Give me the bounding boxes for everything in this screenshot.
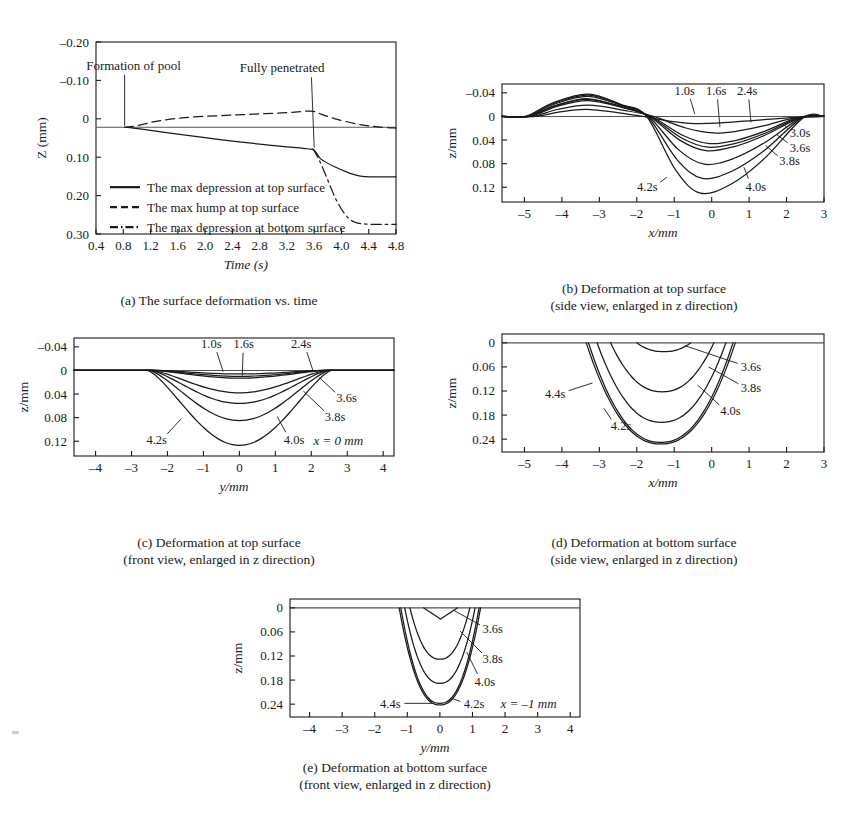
x-tick-label: –4 xyxy=(554,456,569,471)
curve-label-leader xyxy=(307,352,313,371)
x-tick-label: 2 xyxy=(502,721,509,736)
legend-label: The max hump at top surface xyxy=(147,200,299,215)
panel-a-caption: (a) The surface deformation vs. time xyxy=(14,292,424,309)
x-tick-label: 2 xyxy=(783,206,790,221)
x-tick-label: 1 xyxy=(746,456,753,471)
y-tick-label: 0 xyxy=(61,363,68,378)
curve-label-leader xyxy=(167,419,181,434)
x-tick-label: –3 xyxy=(592,456,606,471)
curve-label: 4.2s xyxy=(637,180,658,194)
series-dashed xyxy=(125,111,396,128)
y-tick-label: –0.04 xyxy=(465,85,496,100)
x-tick-label: –3 xyxy=(124,460,138,475)
caption-line: (front view, enlarged in z direction) xyxy=(14,551,424,568)
y-tick-label: 0.08 xyxy=(472,156,495,171)
y-tick-label: 0.18 xyxy=(260,673,283,688)
x-axis-title: y/mm xyxy=(418,740,449,755)
panel-a: –0.20–0.1000.100.200.300.40.81.21.62.02.… xyxy=(14,22,424,309)
y-tick-label: 0 xyxy=(489,335,496,350)
plot-frame xyxy=(502,84,824,202)
curve-label-leader xyxy=(569,383,593,391)
panel-d: 00.060.120.180.24–5–4–3–2–10123x/mmz/mm3… xyxy=(444,320,844,569)
curve-label-leader xyxy=(319,378,335,393)
x-tick-label: 2.0 xyxy=(197,238,213,253)
curve-label-leader xyxy=(660,177,667,182)
y-tick-label: 0 xyxy=(489,109,496,124)
x-tick-label: –3 xyxy=(335,721,349,736)
caption-line: (side view, enlarged in z direction) xyxy=(444,551,844,568)
panel-d-plot: 00.060.120.180.24–5–4–3–2–10123x/mmz/mm3… xyxy=(444,320,844,520)
x-tick-label: 0.8 xyxy=(115,238,131,253)
y-tick-label: 0.04 xyxy=(44,387,67,402)
curve-label: 4.0s xyxy=(284,433,305,447)
curve-label-leader xyxy=(604,408,611,419)
curve-label-leader xyxy=(217,352,223,371)
x-tick-label: 2.8 xyxy=(252,238,268,253)
x-tick-label: –1 xyxy=(667,456,681,471)
y-tick-label: 0.06 xyxy=(472,359,495,374)
panel-c-caption: (c) Deformation at top surface (front vi… xyxy=(14,534,424,569)
curve-label: 3.8s xyxy=(741,381,762,395)
y-tick-label: 0.24 xyxy=(472,432,495,447)
curve-label-leader xyxy=(242,353,243,376)
y-tick-label: 0.12 xyxy=(472,383,495,398)
curve-label: 1.0s xyxy=(674,84,695,98)
x-axis-title: x/mm xyxy=(647,475,677,490)
curve-label: 3.8s xyxy=(779,154,800,168)
x-tick-label: 2.4 xyxy=(224,238,241,253)
x-tick-label: 1 xyxy=(746,206,753,221)
series-solid xyxy=(125,127,396,177)
y-tick-label: 0.12 xyxy=(44,434,67,449)
curve-label-leader xyxy=(303,391,324,411)
panel-e: 00.060.120.180.24–4–3–2–101234y/mmz/mm3.… xyxy=(190,585,600,794)
x-tick-label: 3 xyxy=(821,206,828,221)
caption-line: (b) Deformation at top surface xyxy=(444,280,844,297)
panel-b-caption: (b) Deformation at top surface (side vie… xyxy=(444,280,844,315)
x-tick-label: –5 xyxy=(517,206,531,221)
page-speck xyxy=(12,731,19,734)
curve-label: 3.0s xyxy=(790,126,811,140)
panel-d-caption: (d) Deformation at bottom surface (side … xyxy=(444,534,844,569)
panel-note: x = –1 mm xyxy=(499,696,556,711)
x-tick-label: 4.4 xyxy=(361,238,378,253)
y-axis-title: z/mm xyxy=(444,377,459,408)
panel-c: –0.0400.040.080.12–4–3–2–101234y/mmz/mm1… xyxy=(14,320,424,569)
panel-c-plot: –0.0400.040.080.12–4–3–2–101234y/mmz/mm1… xyxy=(14,320,424,520)
curve-4.2s xyxy=(401,608,479,704)
y-tick-label: 0.12 xyxy=(260,648,283,663)
panel-note: x = 0 mm xyxy=(312,433,363,448)
x-tick-label: –2 xyxy=(160,460,174,475)
caption-line: (front view, enlarged in z direction) xyxy=(190,776,600,793)
curve-label: 4.2s xyxy=(611,419,632,433)
curve-label: 3.6s xyxy=(482,622,503,636)
curve-label: 3.6s xyxy=(790,141,811,155)
x-tick-label: 0 xyxy=(708,206,715,221)
y-tick-label: 0.20 xyxy=(66,188,89,203)
y-tick-label: 0.08 xyxy=(44,410,67,425)
curve-label: 1.6s xyxy=(233,337,254,351)
y-axis-title: Z (mm) xyxy=(34,117,49,159)
panel-e-plot: 00.060.120.180.24–4–3–2–101234y/mmz/mm3.… xyxy=(190,585,600,745)
curve-3.6s xyxy=(424,608,458,619)
x-tick-label: 1.6 xyxy=(170,238,187,253)
x-axis-title: x/mm xyxy=(647,225,677,240)
x-tick-label: 0 xyxy=(437,721,444,736)
x-tick-label: 1 xyxy=(469,721,476,736)
curve-label: 1.0s xyxy=(201,337,222,351)
caption-line: (side view, enlarged in z direction) xyxy=(444,297,844,314)
curve-label-leader xyxy=(454,610,480,625)
x-tick-label: 4 xyxy=(567,721,574,736)
caption-line: (c) Deformation at top surface xyxy=(14,534,424,551)
y-axis-title: z/mm xyxy=(16,381,31,412)
annotation-pointer xyxy=(311,77,314,147)
panel-b: –0.0400.040.080.12–5–4–3–2–10123x/mmz/mm… xyxy=(444,22,844,315)
y-tick-label: 0.18 xyxy=(472,408,495,423)
y-tick-label: 0 xyxy=(83,111,90,126)
caption-line: (a) The surface deformation vs. time xyxy=(14,292,424,309)
curve-label: 4.2s xyxy=(464,697,485,711)
panel-e-caption: (e) Deformation at bottom surface (front… xyxy=(190,759,600,794)
y-tick-label: 0.24 xyxy=(260,697,283,712)
y-tick-label: 0.04 xyxy=(472,133,495,148)
x-tick-label: 3 xyxy=(534,721,541,736)
x-tick-label: –4 xyxy=(302,721,317,736)
